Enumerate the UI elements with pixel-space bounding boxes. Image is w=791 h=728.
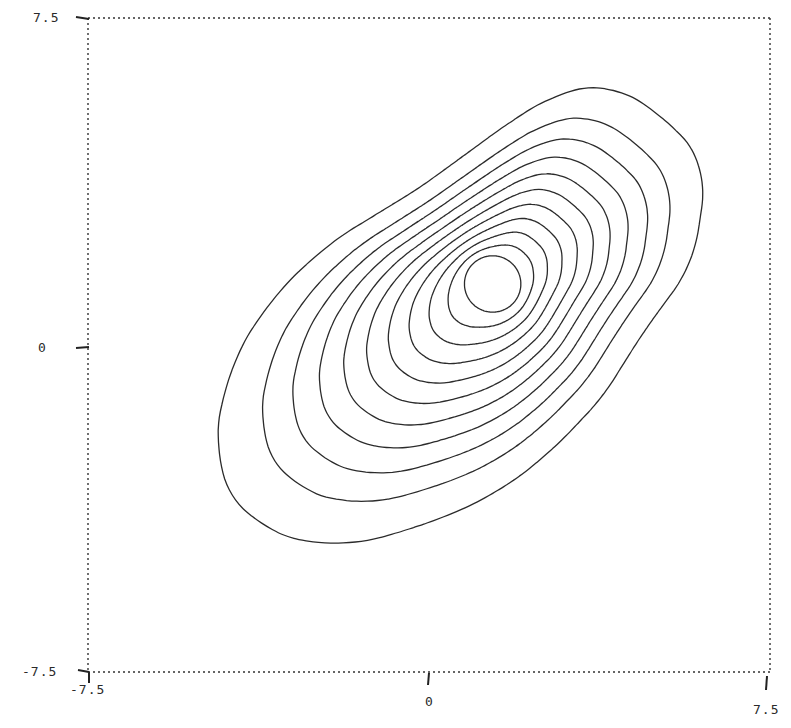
contour-level-2 <box>263 118 670 501</box>
y-tick-label-bottom: -7.5 <box>22 664 57 679</box>
contour-plot <box>0 0 791 728</box>
y-tick-zero <box>76 347 89 348</box>
y-tick-top <box>76 17 89 19</box>
x-tick-label-zero: 0 <box>425 694 434 709</box>
x-tick-label-right: 7.5 <box>753 702 779 717</box>
y-tick-label-top: 7.5 <box>33 10 59 25</box>
contour-lines <box>218 88 703 543</box>
contour-level-11 <box>465 256 521 312</box>
y-tick-label-zero: 0 <box>38 340 47 355</box>
contour-level-5 <box>344 174 610 425</box>
x-tick-zero <box>428 673 429 685</box>
x-tick-label-left: -7.5 <box>70 682 105 697</box>
contour-level-3 <box>293 139 648 473</box>
contour-level-9 <box>429 232 547 345</box>
contour-level-1 <box>218 88 703 543</box>
x-tick-right <box>766 676 767 690</box>
y-tick-bottom <box>78 670 89 672</box>
plot-frame <box>88 18 770 672</box>
contour-level-4 <box>319 157 628 448</box>
